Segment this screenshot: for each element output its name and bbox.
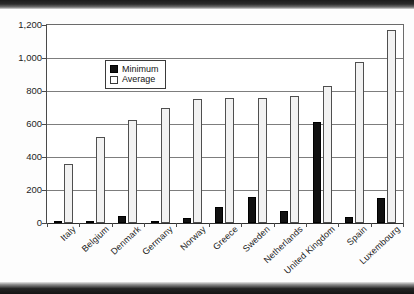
bar-average bbox=[355, 62, 364, 223]
y-axis-tick-mark bbox=[42, 58, 47, 59]
bar-minimum bbox=[151, 221, 159, 223]
x-axis-tick-mark bbox=[403, 223, 404, 227]
bar-average bbox=[128, 120, 137, 223]
hollow-white-square-icon bbox=[110, 76, 118, 84]
bar-minimum bbox=[313, 122, 321, 223]
x-axis-labels: ItalyBelgiumDenmarkGermanyNorwayGreeceSw… bbox=[46, 224, 402, 284]
bar-group bbox=[79, 25, 111, 223]
chart-legend: Minimum Average bbox=[105, 60, 166, 89]
bar-minimum bbox=[183, 218, 191, 223]
legend-item-minimum: Minimum bbox=[110, 64, 159, 74]
bar-group bbox=[176, 25, 208, 223]
bar-average bbox=[225, 98, 234, 223]
y-axis-tick-label: 1,000 bbox=[0, 52, 42, 63]
y-axis-tick-mark bbox=[42, 157, 47, 158]
bar-average bbox=[64, 164, 73, 223]
bar-minimum bbox=[54, 221, 62, 223]
bar-minimum bbox=[118, 216, 126, 223]
bar-average bbox=[96, 137, 105, 223]
bar-average bbox=[161, 108, 170, 224]
bar-group bbox=[371, 25, 403, 223]
x-axis-label: Germany bbox=[141, 224, 175, 257]
y-axis-tick-label: 400 bbox=[0, 151, 42, 162]
y-axis-tick-mark bbox=[42, 124, 47, 125]
bar-group bbox=[274, 25, 306, 223]
x-axis-label: Sweden bbox=[241, 224, 272, 254]
legend-label-average: Average bbox=[122, 74, 155, 84]
plot-area: Minimum Average bbox=[46, 24, 404, 224]
bar-minimum bbox=[215, 207, 223, 223]
x-axis-label: Norway bbox=[178, 224, 208, 253]
bar-minimum bbox=[377, 198, 385, 223]
x-axis-label: Denmark bbox=[109, 224, 143, 257]
y-axis-tick-label: 600 bbox=[0, 118, 42, 129]
bar-group bbox=[47, 25, 79, 223]
y-axis-tick-label: 800 bbox=[0, 85, 42, 96]
filled-black-square-icon bbox=[110, 65, 118, 73]
y-axis-tick-label: 200 bbox=[0, 184, 42, 195]
legend-label-minimum: Minimum bbox=[122, 64, 159, 74]
scan-artifact-top-band bbox=[0, 0, 414, 9]
legend-item-average: Average bbox=[110, 74, 159, 84]
bar-group bbox=[112, 25, 144, 223]
y-axis-tick-mark bbox=[42, 25, 47, 26]
bar-chart-figure: 02004006008001,0001,200 Minimum Average … bbox=[0, 9, 414, 282]
bar-minimum bbox=[86, 221, 94, 223]
bar-average bbox=[258, 98, 267, 223]
x-axis-label: Belgium bbox=[79, 224, 110, 254]
y-axis-tick-label: 1,200 bbox=[0, 19, 42, 30]
bar-average bbox=[323, 86, 332, 223]
x-axis-label: Greece bbox=[211, 224, 240, 252]
bar-average bbox=[387, 30, 396, 223]
bar-group bbox=[338, 25, 370, 223]
y-axis-tick-mark bbox=[42, 190, 47, 191]
scan-artifact-bottom-band bbox=[0, 282, 414, 294]
bar-minimum bbox=[248, 197, 256, 223]
bar-group bbox=[241, 25, 273, 223]
bar-minimum bbox=[280, 211, 288, 223]
bar-minimum bbox=[345, 217, 353, 223]
y-axis-tick-mark bbox=[42, 91, 47, 92]
bar-group bbox=[144, 25, 176, 223]
x-axis-label: Italy bbox=[59, 224, 78, 243]
bar-average bbox=[290, 96, 299, 223]
bar-group bbox=[306, 25, 338, 223]
y-axis-tick-label: 0 bbox=[0, 217, 42, 228]
bar-average bbox=[193, 99, 202, 223]
x-axis-label: Spain bbox=[345, 224, 369, 247]
bar-group bbox=[209, 25, 241, 223]
